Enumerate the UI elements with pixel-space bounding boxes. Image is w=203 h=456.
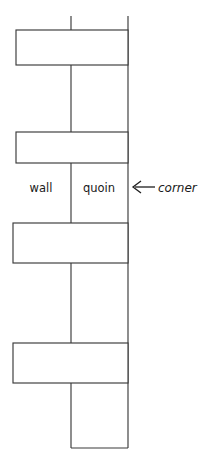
- stone-block: [16, 30, 128, 65]
- masonry-diagram: wall quoin corner: [0, 0, 203, 456]
- label-wall: wall: [30, 181, 53, 195]
- corner-arrow: [133, 181, 155, 193]
- masonry-diagram-canvas: wall quoin corner: [0, 0, 203, 456]
- label-quoin: quoin: [83, 181, 115, 195]
- stone-block: [13, 223, 128, 263]
- stone-block: [13, 343, 128, 383]
- stone-block: [16, 132, 128, 163]
- label-corner: corner: [158, 181, 198, 195]
